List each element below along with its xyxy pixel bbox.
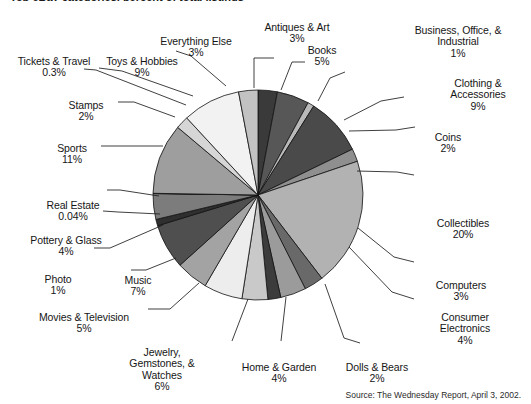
label-jewelry-gemstones-watches-text: Jewelry, Gemstones, & Watches — [129, 346, 194, 381]
label-stamps-text: Stamps — [69, 99, 104, 111]
label-home-and-garden-pct: 4% — [224, 373, 334, 385]
label-dolls-and-bears-pct: 2% — [330, 373, 424, 385]
label-stamps: Stamps 2% — [50, 88, 122, 134]
label-everything-else-text: Everything Else — [160, 35, 231, 47]
label-movies-and-television-text: Movies & Television — [39, 311, 129, 323]
label-antiques-and-art-text: Antiques & Art — [264, 21, 329, 33]
label-real-estate-text: Real Estate — [46, 199, 99, 211]
label-home-and-garden-text: Home & Garden — [242, 361, 317, 373]
label-tickets-and-travel-pct: 0.3% — [4, 67, 104, 79]
pie-slices — [153, 90, 363, 300]
label-real-estate: Real Estate 0.04% — [24, 188, 122, 234]
label-real-estate-pct: 0.04% — [24, 211, 122, 223]
label-coins: Coins 2% — [420, 120, 476, 166]
label-tickets-and-travel: Tickets & Travel 0.3% — [4, 44, 104, 90]
label-jewelry-gemstones-watches-pct: 6% — [100, 381, 224, 393]
label-dolls-and-bears-text: Dolls & Bears — [346, 361, 408, 373]
label-clothing-accessories-pct: 9% — [430, 101, 526, 113]
label-music-pct: 7% — [108, 286, 168, 298]
label-sports: Sports 11% — [36, 131, 108, 177]
label-computers-text: Computers — [436, 279, 486, 291]
label-consumer-electronics-text: Consumer Electronics — [440, 311, 490, 335]
label-clothing-accessories-text: Clothing & Accessories — [450, 77, 506, 101]
label-everything-else: Everything Else 3% — [144, 24, 248, 70]
label-home-and-garden: Home & Garden 4% — [224, 350, 334, 396]
label-collectibles: Collectibles 20% — [418, 206, 508, 252]
label-coins-text: Coins — [435, 131, 461, 143]
label-clothing-accessories: Clothing & Accessories 9% — [430, 66, 526, 124]
label-pottery-and-glass-text: Pottery & Glass — [30, 234, 101, 246]
label-pottery-and-glass-pct: 4% — [12, 246, 120, 258]
pie-chart-figure: Antiques & Art 3% Books 5% Business, Off… — [0, 0, 531, 404]
label-sports-text: Sports — [57, 142, 87, 154]
label-music-text: Music — [125, 274, 152, 286]
label-collectibles-text: Collectibles — [437, 217, 490, 229]
label-business-office-industrial-text: Business, Office, & Industrial — [415, 24, 502, 48]
label-stamps-pct: 2% — [50, 111, 122, 123]
label-sports-pct: 11% — [36, 154, 108, 166]
label-collectibles-pct: 20% — [418, 229, 508, 241]
label-tickets-and-travel-text: Tickets & Travel — [18, 55, 91, 67]
label-business-office-industrial-pct: 1% — [392, 48, 524, 60]
label-books: Books 5% — [290, 33, 354, 79]
label-consumer-electronics-pct: 4% — [418, 335, 512, 347]
label-music: Music 7% — [108, 263, 168, 309]
label-photo-text: Photo — [45, 273, 72, 285]
label-movies-and-television-pct: 5% — [20, 323, 148, 335]
label-business-office-industrial: Business, Office, & Industrial 1% — [392, 13, 524, 71]
label-books-pct: 5% — [290, 56, 354, 68]
label-books-text: Books — [308, 44, 337, 56]
source-note: Source: The Wednesday Report, April 3, 2… — [346, 390, 521, 400]
label-photo-pct: 1% — [26, 285, 90, 297]
label-consumer-electronics: Consumer Electronics 4% — [418, 300, 512, 358]
label-everything-else-pct: 3% — [144, 47, 248, 59]
label-coins-pct: 2% — [420, 143, 476, 155]
